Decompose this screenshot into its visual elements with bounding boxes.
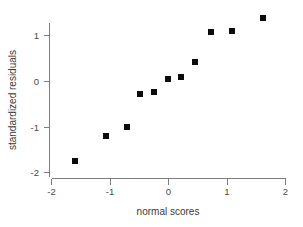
y-axis-tick-labels: -2-101 [31, 30, 39, 178]
scatter-plot-canvas: -2-101 -2-1012 normal scores standardize… [0, 0, 303, 227]
y-axis-ticks [44, 36, 50, 173]
y-tick-label: 1 [34, 30, 39, 41]
y-axis-title: standardized residuals [7, 50, 18, 150]
data-point [103, 133, 109, 139]
data-point [72, 158, 78, 164]
data-point [229, 28, 235, 34]
data-point [137, 91, 143, 97]
y-tick-label: -2 [31, 167, 39, 178]
x-tick-label: -1 [106, 186, 114, 197]
data-point [151, 89, 157, 95]
data-point [124, 124, 130, 130]
data-point [208, 29, 214, 35]
data-point [165, 76, 171, 82]
y-tick-label: 0 [34, 76, 39, 87]
data-point [178, 74, 184, 80]
qq-plot-figure: -2-101 -2-1012 normal scores standardize… [0, 0, 303, 227]
x-axis-ticks [52, 179, 286, 185]
data-point [192, 59, 198, 65]
x-tick-label: 0 [166, 186, 171, 197]
x-tick-label: 2 [283, 186, 288, 197]
x-axis-tick-labels: -2-1012 [47, 186, 288, 197]
data-point [260, 15, 266, 21]
x-axis-title: normal scores [137, 206, 200, 217]
y-tick-label: -1 [31, 122, 39, 133]
x-tick-label: -2 [47, 186, 55, 197]
data-points-layer [72, 15, 266, 164]
x-tick-label: 1 [224, 186, 229, 197]
